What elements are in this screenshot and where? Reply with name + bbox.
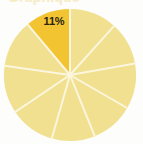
pie-chart-svg: [0, 0, 143, 144]
pie-slice-label-highlighted: 11%: [40, 15, 68, 28]
pie-chart-screenshot: Graphique 11%: [0, 0, 143, 144]
pie-chart: [0, 0, 143, 144]
